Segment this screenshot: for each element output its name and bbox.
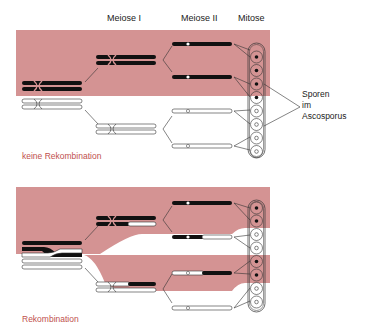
- spore: [251, 146, 263, 158]
- spore-label-line3: Ascosporus: [302, 111, 346, 121]
- spore: [251, 119, 263, 131]
- start-bivalent-light: [22, 99, 82, 109]
- caption-no-recombination: keine Rekombination: [22, 151, 102, 161]
- spore: [251, 132, 263, 144]
- spore: [251, 296, 263, 308]
- header-meiose2: Meiose II: [181, 13, 218, 23]
- spore: [251, 229, 263, 241]
- spore-label-line2: im: [302, 100, 311, 110]
- caption-recombination: Rekombination: [22, 314, 79, 324]
- meiose1-light-pair: [96, 124, 156, 134]
- panel-no-recombination: Meiose I Meiose II Mitose: [16, 13, 346, 161]
- spore-label-line1: Sporen: [302, 89, 330, 99]
- spore: [251, 105, 263, 117]
- spore: [251, 242, 263, 254]
- meiosis-diagram: Meiose I Meiose II Mitose: [0, 0, 369, 335]
- header-mitose: Mitose: [238, 13, 265, 23]
- spore: [251, 283, 263, 295]
- panel-recombination: Rekombination: [16, 187, 270, 324]
- header-meiose1: Meiose I: [107, 13, 141, 23]
